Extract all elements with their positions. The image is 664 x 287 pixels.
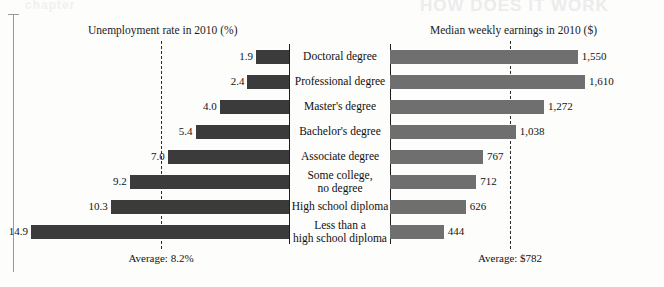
earnings-bar	[390, 150, 483, 164]
earnings-value-label: 444	[448, 222, 465, 240]
unemployment-bar	[256, 50, 289, 64]
category-label: Bachelor's degree	[291, 119, 389, 144]
category-label-line: Bachelor's degree	[299, 125, 381, 138]
chart-row: 5.41,038Bachelor's degree	[0, 119, 664, 144]
earnings-value-label: 1,550	[582, 47, 607, 65]
unemployment-bar	[111, 200, 289, 214]
earnings-bar	[390, 225, 444, 239]
category-label-line: Professional degree	[295, 75, 385, 88]
category-label-line: Less than a	[314, 219, 366, 232]
unemployment-bar	[196, 125, 289, 139]
unemployment-bar	[168, 150, 289, 164]
unemployment-bar	[247, 75, 289, 89]
category-label: Associate degree	[291, 144, 389, 169]
category-label: Some college,no degree	[291, 169, 389, 194]
earnings-bar	[390, 200, 466, 214]
earnings-value-label: 712	[480, 172, 497, 190]
earnings-value-label: 626	[470, 197, 487, 215]
chart-row: 9.2712Some college,no degree	[0, 169, 664, 194]
chart-row: 10.3626High school diploma	[0, 194, 664, 219]
earnings-value-label: 767	[487, 147, 504, 165]
earnings-bar	[390, 50, 578, 64]
chart-row: 14.9444Less than ahigh school diploma	[0, 219, 664, 244]
plot-area: 1.91,550Doctoral degree2.41,610Professio…	[0, 44, 664, 244]
unemployment-value-label: 2.4	[231, 72, 245, 90]
earnings-bar	[390, 175, 476, 189]
left-average-caption: Average: 8.2%	[128, 252, 193, 264]
category-label: Doctoral degree	[291, 44, 389, 69]
category-label-line: Associate degree	[301, 150, 379, 163]
category-label-line: Doctoral degree	[303, 50, 377, 63]
category-label: Less than ahigh school diploma	[291, 219, 389, 244]
chart-row: 2.41,610Professional degree	[0, 69, 664, 94]
earnings-bar	[390, 75, 585, 89]
education-earnings-unemployment-chart: HOW DOES IT WORK chapter Unemployment ra…	[0, 0, 664, 287]
page-bleed-through-text-left: chapter	[25, 0, 75, 12]
unemployment-value-label: 7.0	[151, 147, 165, 165]
chart-row: 7.0767Associate degree	[0, 144, 664, 169]
unemployment-bar	[31, 225, 289, 239]
earnings-bar	[390, 100, 544, 114]
unemployment-value-label: 5.4	[179, 122, 193, 140]
left-column-title: Unemployment rate in 2010 (%)	[88, 24, 237, 36]
earnings-value-label: 1,272	[548, 97, 573, 115]
unemployment-value-label: 14.9	[9, 222, 28, 240]
category-label-line: Some college,	[307, 169, 372, 182]
unemployment-value-label: 4.0	[203, 97, 217, 115]
category-label-line: high school diploma	[293, 232, 387, 245]
earnings-value-label: 1,038	[520, 122, 545, 140]
unemployment-bar	[130, 175, 289, 189]
unemployment-value-label: 1.9	[239, 47, 253, 65]
unemployment-value-label: 9.2	[113, 172, 127, 190]
page-bleed-through-text-right: HOW DOES IT WORK	[420, 0, 609, 16]
category-label: High school diploma	[291, 194, 389, 219]
earnings-bar	[390, 125, 516, 139]
chart-row: 4.01,272Master's degree	[0, 94, 664, 119]
chart-row: 1.91,550Doctoral degree	[0, 44, 664, 69]
category-label-line: High school diploma	[292, 200, 388, 213]
earnings-value-label: 1,610	[589, 72, 614, 90]
unemployment-bar	[220, 100, 289, 114]
category-label: Master's degree	[291, 94, 389, 119]
right-column-title: Median weekly earnings in 2010 ($)	[430, 24, 597, 36]
category-label: Professional degree	[291, 69, 389, 94]
right-average-caption: Average: $782	[478, 252, 542, 264]
unemployment-value-label: 10.3	[88, 197, 107, 215]
category-label-line: Master's degree	[304, 100, 376, 113]
category-label-line: no degree	[317, 182, 362, 195]
